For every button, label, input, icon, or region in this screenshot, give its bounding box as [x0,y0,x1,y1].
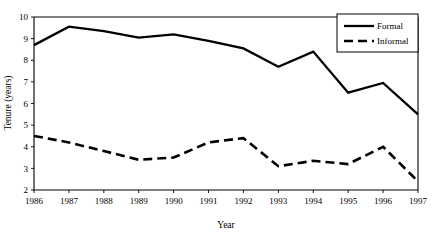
x-tick-label: 1988 [95,196,114,206]
legend: Formal Informal [337,14,418,52]
y-tick-label: 8 [24,55,29,65]
y-tick-label: 2 [24,185,29,195]
line-chart: 2345678910 19861987198819891990199119921… [0,0,441,242]
y-tick-label: 5 [24,120,29,130]
y-tick-label: 4 [24,142,29,152]
y-tick-label: 10 [19,12,29,22]
x-tick-label: 1989 [130,196,149,206]
x-tick-label: 1992 [234,196,252,206]
legend-label-informal: Informal [377,36,409,46]
y-tick-label: 7 [24,77,29,87]
x-tick-label: 1987 [60,196,79,206]
series-line-informal [34,136,418,181]
y-tick-label: 6 [24,99,29,109]
legend-box [337,14,418,52]
x-tick-label: 1993 [269,196,288,206]
x-tick-label: 1990 [165,196,184,206]
y-tick-label: 3 [24,164,29,174]
x-tick-label: 1996 [374,196,393,206]
y-tick-label: 9 [24,34,29,44]
x-tick-label: 1991 [200,196,218,206]
x-tick-label: 1994 [304,196,323,206]
x-tick-label: 1995 [339,196,358,206]
x-tick-label: 1986 [25,196,44,206]
x-tick-label: 1997 [409,196,428,206]
y-axis: 2345678910 [19,12,34,195]
x-axis: 1986198719881989199019911992199319941995… [25,190,428,206]
x-axis-title: Year [217,220,235,230]
legend-label-formal: Formal [377,21,403,31]
chart-canvas: 2345678910 19861987198819891990199119921… [0,0,441,242]
y-axis-title: Tenure (years) [3,76,14,131]
